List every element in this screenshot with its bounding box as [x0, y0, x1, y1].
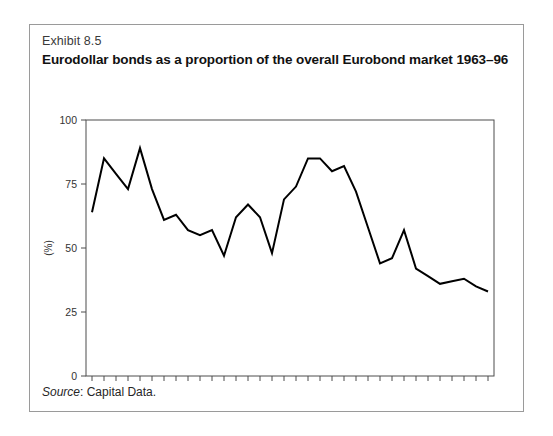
y-axis-ticks: 0255075100 — [59, 114, 86, 382]
chart-svg: 0255075100 63646566676869707172737475767… — [30, 77, 525, 382]
x-axis-ticks: 6364656667686970717273747576777879808182… — [87, 376, 493, 382]
exhibit-title: Eurodollar bonds as a proportion of the … — [42, 52, 508, 67]
source-label: Source — [42, 385, 80, 399]
y-axis-title: (%) — [43, 240, 54, 256]
series-line-eurodollar-share — [92, 148, 488, 291]
exhibit-label: Exhibit 8.5 — [42, 34, 101, 48]
y-tick-label: 0 — [71, 370, 77, 382]
y-tick-label: 75 — [65, 178, 77, 190]
y-tick-label: 25 — [65, 306, 77, 318]
y-tick-label: 50 — [65, 242, 77, 254]
line-chart: 0255075100 63646566676869707172737475767… — [30, 77, 525, 382]
data-series — [92, 148, 488, 291]
source-value: : Capital Data. — [80, 385, 156, 399]
plot-border — [86, 120, 494, 376]
y-tick-label: 100 — [59, 114, 77, 126]
y-axis-title-text: (%) — [43, 240, 54, 256]
exhibit-frame: Exhibit 8.5 Eurodollar bonds as a propor… — [29, 24, 524, 412]
source-note: Source: Capital Data. — [42, 385, 156, 399]
plot-frame — [86, 120, 494, 376]
